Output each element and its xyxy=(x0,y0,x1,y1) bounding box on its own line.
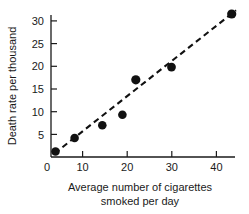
x-tick-label-10: 10 xyxy=(76,161,88,173)
data-point xyxy=(227,9,236,18)
x-tick-label-30: 30 xyxy=(166,161,178,173)
data-point xyxy=(51,147,60,156)
trend-line xyxy=(55,10,236,153)
y-tick-label-15: 15 xyxy=(32,83,44,95)
data-point xyxy=(131,75,140,84)
data-point xyxy=(98,121,107,130)
y-tick-label-25: 25 xyxy=(32,38,44,50)
x-axis-title-line2: smoked per day xyxy=(101,195,180,207)
data-point xyxy=(70,134,79,143)
y-tick-label-0: 0 xyxy=(44,161,50,173)
x-axis-ticks xyxy=(83,151,217,157)
y-tick-label-5: 5 xyxy=(38,129,44,141)
y-axis-title: Death rate per thousand xyxy=(6,27,18,146)
x-tick-label-40: 40 xyxy=(210,161,222,173)
scatter-chart-figure: 30 25 20 15 10 5 0 10 20 30 40 Death rat… xyxy=(0,0,249,214)
chart-canvas: 30 25 20 15 10 5 0 10 20 30 40 Death rat… xyxy=(0,0,249,214)
y-axis-ticks xyxy=(51,21,57,134)
y-tick-label-30: 30 xyxy=(32,15,44,27)
x-tick-label-20: 20 xyxy=(121,161,133,173)
data-point xyxy=(118,111,127,120)
data-point xyxy=(167,63,176,72)
y-tick-label-10: 10 xyxy=(32,106,44,118)
x-axis-title-line1: Average number of cigarettes xyxy=(68,181,213,193)
y-tick-label-20: 20 xyxy=(32,60,44,72)
